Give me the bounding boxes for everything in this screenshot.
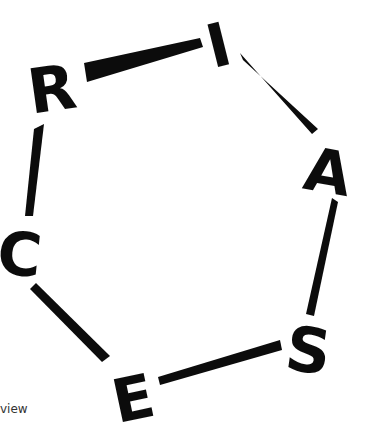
letter-i: I <box>199 8 238 81</box>
line-c-r <box>25 124 44 216</box>
caption-text: view <box>0 402 28 416</box>
line-e-c <box>30 283 110 362</box>
line-i-a <box>240 53 318 134</box>
letter-r: R <box>23 50 80 129</box>
line-r-i <box>84 38 203 82</box>
letter-a: A <box>299 133 357 210</box>
letter-e: E <box>106 360 161 437</box>
line-s-e <box>158 340 282 385</box>
riasec-hexagon-diagram: R I A S E C <box>0 0 368 437</box>
letter-c: C <box>0 217 45 291</box>
letter-s: S <box>281 311 335 390</box>
line-a-s <box>306 198 338 316</box>
